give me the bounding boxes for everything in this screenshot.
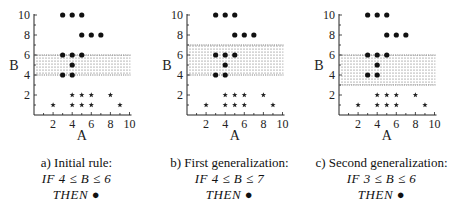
y-tick-label: 2	[329, 88, 335, 102]
dot-marker	[60, 52, 65, 57]
caption-then: THEN ●	[153, 187, 306, 203]
dot-marker	[98, 32, 103, 37]
star-marker	[375, 102, 380, 107]
dot-marker	[70, 62, 75, 67]
dot-marker	[79, 52, 84, 57]
star-points	[203, 92, 275, 107]
star-marker	[232, 102, 237, 107]
dot-marker	[70, 52, 75, 57]
dot-marker	[384, 32, 389, 37]
caption-title: a) Initial rule:	[0, 155, 153, 171]
y-tick-label: 10	[323, 8, 335, 22]
x-tick-label: 6	[241, 117, 247, 131]
caption-then: THEN ●	[305, 187, 458, 203]
y-tick-label: 6	[329, 48, 335, 62]
x-axis-label: A	[382, 128, 393, 140]
x-tick-label: 2	[355, 117, 361, 131]
star-marker	[422, 102, 427, 107]
rule-region	[35, 55, 131, 75]
x-tick-label: 4	[374, 117, 380, 131]
dot-marker	[384, 12, 389, 17]
dot-marker	[223, 52, 228, 57]
x-tick-label: 10	[429, 117, 441, 131]
star-marker	[261, 92, 266, 97]
caption-a: a) Initial rule: IF 4 ≤ B ≤ 6 THEN ●	[0, 155, 153, 203]
dot-marker	[60, 72, 65, 77]
y-tick-label: 4	[177, 68, 183, 82]
dot-marker	[232, 52, 237, 57]
dot-marker	[232, 12, 237, 17]
dot-marker	[375, 12, 380, 17]
star-marker	[223, 92, 228, 97]
star-marker	[232, 92, 237, 97]
x-axis-label: A	[77, 128, 88, 140]
y-axis-label: B	[9, 58, 18, 73]
x-tick-label: 6	[393, 117, 399, 131]
x-tick-label: 8	[107, 117, 113, 131]
caption-rule: IF 4 ≤ B ≤ 6	[0, 171, 153, 187]
star-marker	[375, 92, 380, 97]
y-tick-label: 2	[177, 88, 183, 102]
dot-marker	[79, 12, 84, 17]
dot-marker	[223, 12, 228, 17]
star-marker	[89, 92, 94, 97]
star-marker	[355, 102, 360, 107]
dot-marker	[213, 72, 218, 77]
star-marker	[108, 92, 113, 97]
y-tick-label: 8	[329, 28, 335, 42]
caption-title: b) First generalization:	[153, 155, 306, 171]
star-points	[50, 92, 122, 107]
y-tick-label: 8	[24, 28, 30, 42]
dot-marker	[223, 72, 228, 77]
caption-title: c) Second generalization:	[305, 155, 458, 171]
panel-c: 246810246810BA c) Second generalization:…	[305, 0, 458, 209]
star-marker	[79, 102, 84, 107]
dot-marker	[70, 12, 75, 17]
caption-b: b) First generalization: IF 4 ≤ B ≤ 7 TH…	[153, 155, 306, 203]
star-marker	[70, 92, 75, 97]
x-tick-label: 8	[260, 117, 266, 131]
dot-marker	[70, 72, 75, 77]
caption-c: c) Second generalization: IF 3 ≤ B ≤ 6 T…	[305, 155, 458, 203]
y-tick-label: 4	[329, 68, 335, 82]
dot-marker	[365, 12, 370, 17]
y-tick-label: 2	[24, 88, 30, 102]
dot-marker	[242, 32, 247, 37]
dot-marker	[60, 12, 65, 17]
plot-a: 246810246810BA	[0, 0, 153, 140]
star-marker	[50, 102, 55, 107]
dot-marker	[79, 32, 84, 37]
dot-marker	[375, 52, 380, 57]
dot-marker	[384, 52, 389, 57]
star-marker	[394, 102, 399, 107]
x-tick-label: 10	[277, 117, 289, 131]
caption-rule: IF 3 ≤ B ≤ 6	[305, 171, 458, 187]
y-axis-label: B	[314, 58, 323, 73]
star-marker	[203, 102, 208, 107]
caption-then: THEN ●	[0, 187, 153, 203]
dot-marker	[251, 32, 256, 37]
x-tick-label: 6	[88, 117, 94, 131]
star-marker	[270, 102, 275, 107]
panel-a: 246810246810BA a) Initial rule: IF 4 ≤ B…	[0, 0, 153, 209]
plot-b: 246810246810BA	[153, 0, 306, 140]
dot-marker	[89, 32, 94, 37]
dot-marker	[213, 12, 218, 17]
plot-c: 246810246810BA	[305, 0, 458, 140]
x-tick-label: 2	[50, 117, 56, 131]
x-tick-label: 4	[222, 117, 228, 131]
rule-region	[340, 55, 436, 85]
dot-marker	[375, 72, 380, 77]
star-marker	[242, 92, 247, 97]
x-tick-label: 8	[412, 117, 418, 131]
dot-marker	[365, 52, 370, 57]
rule-region	[188, 45, 284, 75]
y-tick-label: 6	[177, 48, 183, 62]
star-marker	[79, 92, 84, 97]
dot-marker	[232, 32, 237, 37]
dot-marker	[223, 62, 228, 67]
y-tick-label: 4	[24, 68, 30, 82]
x-tick-label: 2	[203, 117, 209, 131]
star-marker	[117, 102, 122, 107]
star-points	[355, 92, 427, 107]
